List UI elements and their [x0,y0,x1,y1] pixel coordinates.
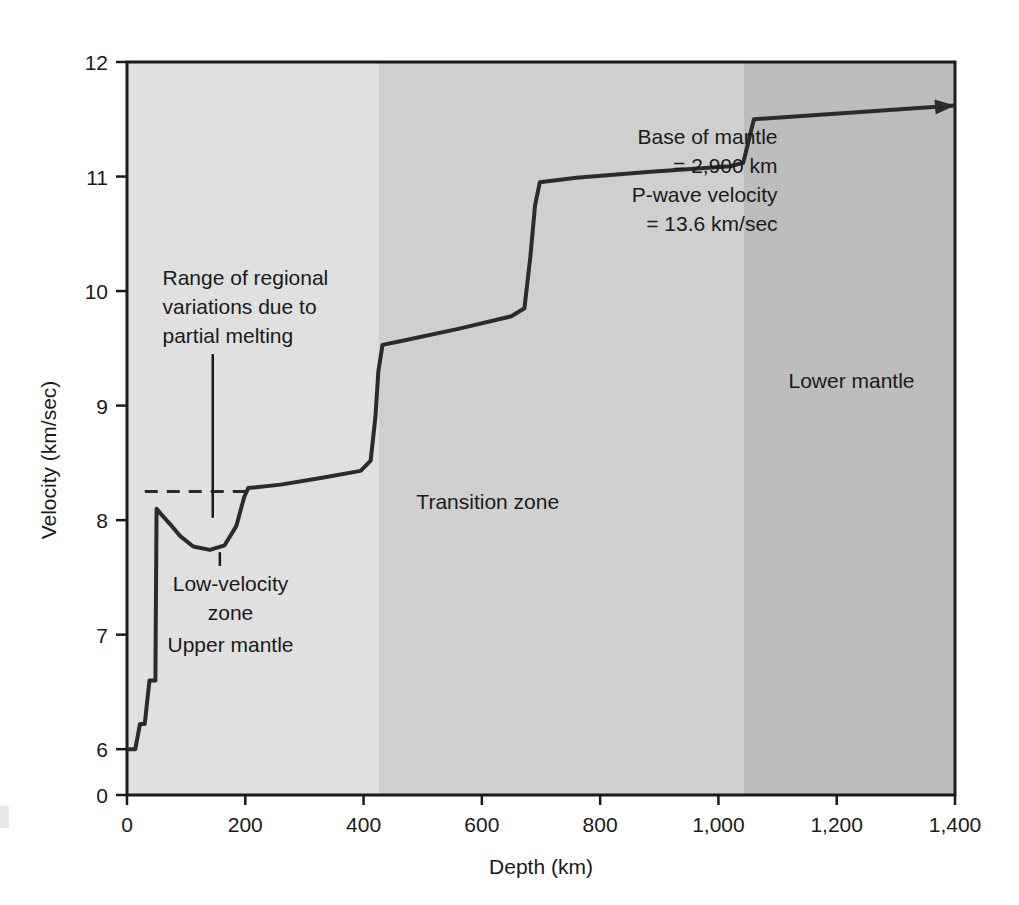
base-of-mantle-line-1: = 2,900 km [673,154,777,177]
x-axis-ticks: 02004006008001,0001,2001,400 [121,795,981,836]
low-velocity-zone-line-1: zone [208,601,254,624]
x-tick-label-0: 0 [121,813,133,836]
lower-mantle-label: Lower mantle [788,369,914,392]
x-tick-label-5: 1,000 [692,813,745,836]
regional-variations-line-0: Range of regional [162,266,328,289]
y-tick-label-3: 8 [96,509,108,532]
y-tick-label-0: 0 [96,784,108,807]
x-tick-label-7: 1,400 [929,813,982,836]
y-tick-label-1: 6 [96,738,108,761]
y-tick-label-5: 10 [85,280,108,303]
y-axis-ticks: 06789101112 [85,51,127,807]
region-bands [127,62,955,795]
y-tick-label-4: 9 [96,395,108,418]
upper-mantle-label: Upper mantle [167,633,293,656]
low-velocity-zone-line-0: Low-velocity [173,572,289,595]
figure-container: 02004006008001,0001,2001,400 06789101112… [0,0,1019,905]
regional-variations-line-2: partial melting [162,324,293,347]
regional-variations-line-1: variations due to [162,295,316,318]
region-band-upper-mantle [127,62,378,795]
transition-zone-label: Transition zone [416,490,559,513]
x-tick-label-4: 800 [583,813,618,836]
x-tick-label-2: 400 [346,813,381,836]
base-of-mantle-line-2: P-wave velocity [632,183,778,206]
base-of-mantle-line-3: = 13.6 km/sec [646,212,777,235]
page-edge-artifact [0,806,9,828]
x-tick-label-3: 600 [464,813,499,836]
x-tick-label-6: 1,200 [810,813,863,836]
x-tick-label-1: 200 [228,813,263,836]
y-tick-label-7: 12 [85,51,108,74]
y-tick-label-6: 11 [86,166,108,189]
velocity-depth-chart: 02004006008001,0001,2001,400 06789101112… [0,0,1019,905]
y-tick-label-2: 7 [96,624,108,647]
y-axis-title: Velocity (km/sec) [37,381,60,540]
x-axis-title: Depth (km) [489,855,593,878]
base-of-mantle-line-0: Base of mantle [637,125,777,148]
